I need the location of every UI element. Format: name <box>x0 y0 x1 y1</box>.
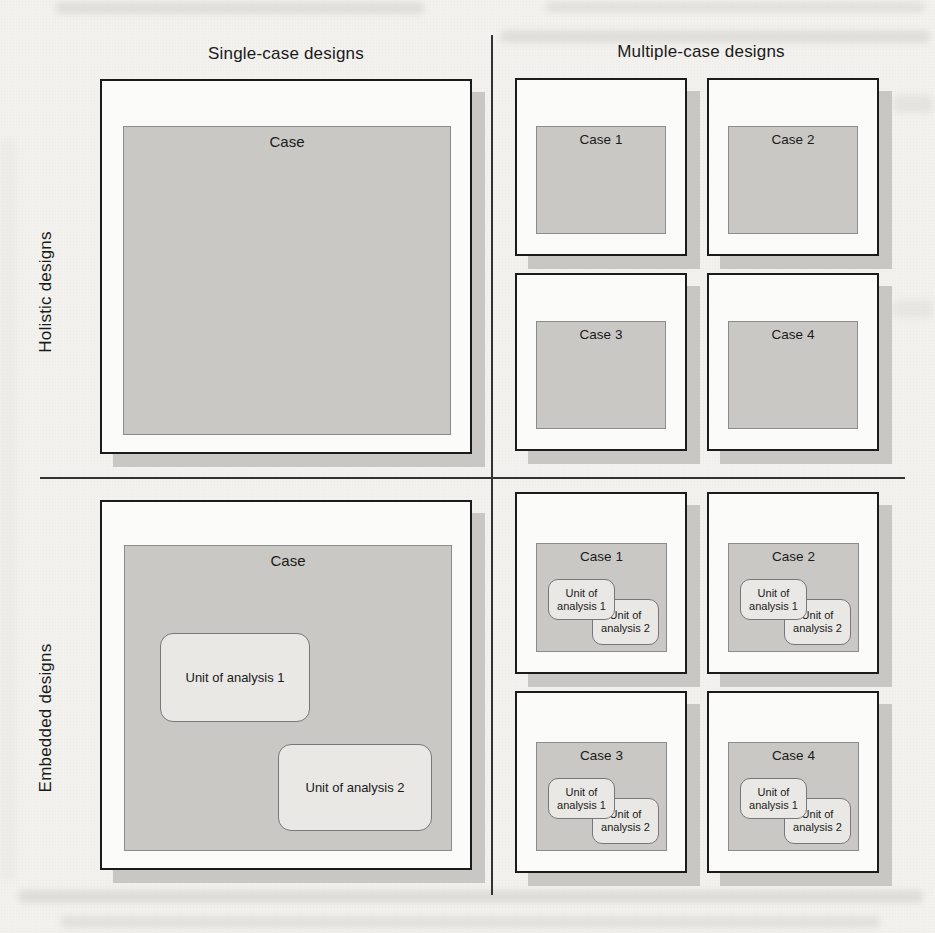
case-area: Case 3 <box>536 321 666 429</box>
case-area: Case Unit of analysis 1 Unit of analysis… <box>124 545 452 851</box>
unit-label: analysis 2 <box>793 622 842 635</box>
unit-of-analysis-2-box: Unit of analysis 2 <box>278 744 432 831</box>
unit-label: analysis 2 <box>793 821 842 834</box>
holistic-case-2-box: Case 2 <box>707 78 879 256</box>
vertical-divider-line <box>491 35 493 895</box>
unit-label: analysis 1 <box>749 799 798 812</box>
unit-of-analysis-1-box: Unit of analysis 1 <box>548 778 615 819</box>
holistic-single-case-box: Case <box>100 79 472 454</box>
case-label: Case 4 <box>729 743 858 763</box>
embedded-single-case-box: Case Unit of analysis 1 Unit of analysis… <box>100 500 472 870</box>
column-title-single-case: Single-case designs <box>100 44 472 64</box>
bleed-through-text <box>545 2 925 12</box>
unit-of-analysis-1-box: Unit of analysis 1 <box>548 579 615 620</box>
bleed-through-text <box>893 95 933 113</box>
holistic-case-1-box: Case 1 <box>515 78 687 256</box>
bleed-through-text <box>893 300 933 318</box>
holistic-case-3-box: Case 3 <box>515 273 687 451</box>
case-label: Case <box>124 127 450 150</box>
embedded-case-2-box: Case 2 Unit of analysis 2 Unit of analys… <box>707 492 879 674</box>
horizontal-divider-line <box>40 477 905 479</box>
unit-label: Unit of analysis 2 <box>306 780 405 795</box>
case-label: Case 4 <box>729 322 857 342</box>
row-title-holistic: Holistic designs <box>36 231 56 352</box>
unit-label: analysis 2 <box>601 821 650 834</box>
page-edge-shading <box>0 140 16 880</box>
column-title-multiple-case: Multiple-case designs <box>515 42 887 62</box>
unit-label: Unit of <box>566 786 598 799</box>
unit-label: Unit of analysis 1 <box>186 670 285 685</box>
bleed-through-text <box>60 916 880 928</box>
unit-label: Unit of <box>758 587 790 600</box>
bleed-through-text <box>55 2 425 14</box>
case-area: Case 1 <box>536 126 666 234</box>
unit-label: analysis 1 <box>557 600 606 613</box>
unit-of-analysis-1-box: Unit of analysis 1 <box>160 633 310 722</box>
case-study-design-figure: Single-case designs Multiple-case design… <box>0 0 935 933</box>
case-area: Case <box>123 126 451 435</box>
row-title-embedded: Embedded designs <box>36 644 56 793</box>
case-area: Case 3 Unit of analysis 2 Unit of analys… <box>536 742 667 851</box>
case-area: Case 2 Unit of analysis 2 Unit of analys… <box>728 543 859 652</box>
unit-label: analysis 1 <box>749 600 798 613</box>
case-label: Case <box>125 546 451 569</box>
embedded-case-1-box: Case 1 Unit of analysis 2 Unit of analys… <box>515 492 687 674</box>
unit-of-analysis-1-box: Unit of analysis 1 <box>740 579 807 620</box>
case-area: Case 2 <box>728 126 858 234</box>
embedded-case-3-box: Case 3 Unit of analysis 2 Unit of analys… <box>515 691 687 873</box>
unit-label: Unit of <box>758 786 790 799</box>
case-area: Case 1 Unit of analysis 2 Unit of analys… <box>536 543 667 652</box>
case-label: Case 1 <box>537 127 665 147</box>
case-label: Case 3 <box>537 743 666 763</box>
unit-label: Unit of <box>566 587 598 600</box>
case-label: Case 2 <box>729 544 858 564</box>
bleed-through-text <box>18 890 923 903</box>
case-label: Case 3 <box>537 322 665 342</box>
case-label: Case 2 <box>729 127 857 147</box>
embedded-case-4-box: Case 4 Unit of analysis 2 Unit of analys… <box>707 691 879 873</box>
unit-of-analysis-1-box: Unit of analysis 1 <box>740 778 807 819</box>
case-label: Case 1 <box>537 544 666 564</box>
case-area: Case 4 Unit of analysis 2 Unit of analys… <box>728 742 859 851</box>
unit-label: analysis 1 <box>557 799 606 812</box>
unit-label: analysis 2 <box>601 622 650 635</box>
case-area: Case 4 <box>728 321 858 429</box>
holistic-case-4-box: Case 4 <box>707 273 879 451</box>
